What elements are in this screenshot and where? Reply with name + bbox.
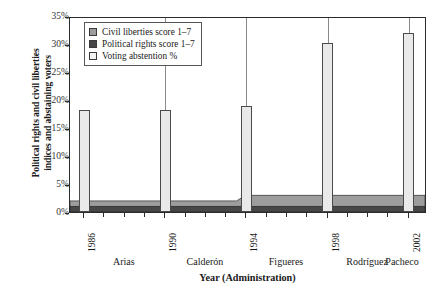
y-tick-label: 20% — [35, 96, 69, 106]
legend-item-political-rights: Political rights score 1–7 — [89, 38, 195, 50]
chart-legend: Civil liberties score 1–7 Political righ… — [84, 22, 202, 66]
legend-label-civil-liberties: Civil liberties score 1–7 — [102, 27, 191, 37]
bar-voting-abstention — [241, 106, 252, 212]
x-tick-label-year: 2002 — [412, 233, 422, 252]
administration-label: Rodríguez — [346, 256, 388, 268]
y-tick-label: 5% — [35, 180, 69, 190]
y-tick-label: 30% — [35, 40, 69, 50]
x-tick-label-year: 1998 — [331, 233, 341, 252]
administration-label: Figueres — [269, 256, 303, 268]
x-tick-mark — [103, 213, 104, 217]
y-tick-label: 25% — [35, 68, 69, 78]
y-tick-label: 35% — [35, 12, 69, 22]
x-tick-mark — [144, 213, 145, 217]
x-axis-year-labels: 19861990199419982002 — [69, 219, 426, 255]
x-axis-title: Year (Administration) — [69, 272, 426, 283]
y-tick-label: 10% — [35, 152, 69, 162]
x-tick-mark — [225, 213, 226, 217]
x-tick-mark — [286, 213, 287, 217]
bar-voting-abstention — [79, 110, 90, 212]
administration-label: Pacheco — [385, 256, 418, 268]
y-tick-label: 0% — [35, 208, 69, 218]
legend-swatch-political-rights — [89, 40, 97, 48]
legend-swatch-civil-liberties — [89, 28, 97, 36]
x-tick-mark — [367, 213, 368, 217]
administration-label: Calderón — [187, 256, 224, 268]
x-tick-mark — [83, 213, 84, 218]
x-tick-label-year: 1990 — [168, 233, 178, 252]
x-tick-mark — [185, 213, 186, 217]
x-tick-label-year: 1986 — [87, 233, 97, 252]
legend-swatch-voting-abstention — [89, 52, 97, 60]
legend-item-voting-abstention: Voting abstention % — [89, 50, 195, 62]
x-tick-mark — [205, 213, 206, 217]
bar-voting-abstention — [322, 43, 333, 212]
y-axis-title: Political rights and civil liberties ind… — [0, 0, 34, 225]
x-axis-administration-labels: AriasCalderónFigueresRodríguezPacheco — [69, 256, 426, 270]
x-tick-mark — [124, 213, 125, 217]
bar-voting-abstention — [160, 110, 171, 212]
x-tick-mark — [164, 213, 165, 218]
legend-item-civil-liberties: Civil liberties score 1–7 — [89, 26, 195, 38]
administration-label: Arias — [113, 256, 135, 268]
legend-label-political-rights: Political rights score 1–7 — [102, 39, 195, 49]
x-tick-mark — [347, 213, 348, 217]
x-tick-mark — [266, 213, 267, 217]
bar-voting-abstention — [403, 33, 414, 212]
x-tick-label-year: 1994 — [249, 233, 259, 252]
chart-figure: Political rights and civil liberties ind… — [0, 0, 442, 293]
legend-label-voting-abstention: Voting abstention % — [102, 51, 177, 61]
y-axis-ticks: 35%30%25%20%15%10%5%0% — [31, 0, 69, 293]
x-tick-mark — [408, 213, 409, 218]
x-tick-mark — [245, 213, 246, 218]
x-tick-mark — [387, 213, 388, 217]
x-tick-mark — [327, 213, 328, 218]
y-tick-label: 15% — [35, 124, 69, 134]
x-tick-mark — [306, 213, 307, 217]
